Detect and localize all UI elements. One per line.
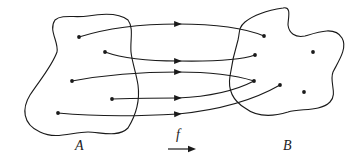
set-a-label: A — [75, 138, 84, 154]
mapping-arrows — [58, 24, 280, 116]
domain-points — [56, 35, 114, 115]
set-b-boundary — [230, 8, 344, 115]
map-arrow-2 — [105, 52, 178, 61]
map-arrow-4 — [112, 98, 178, 99]
map-arrow-5 — [58, 113, 178, 116]
function-label: f — [176, 127, 180, 143]
codomain-points — [252, 34, 315, 94]
map-arrow-1 — [79, 24, 178, 37]
map-arrow-3 — [72, 72, 178, 81]
set-b-label: B — [283, 138, 292, 154]
function-diagram — [0, 0, 361, 164]
